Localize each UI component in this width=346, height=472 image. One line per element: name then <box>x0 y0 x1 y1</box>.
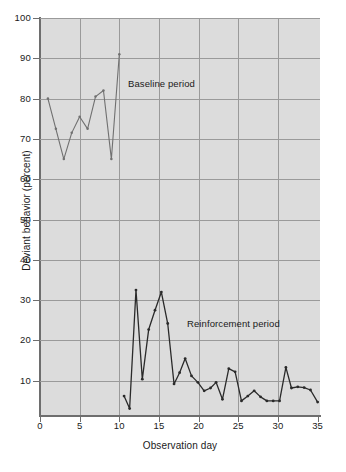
data-series-layer <box>0 0 346 472</box>
data-point <box>70 132 73 135</box>
data-point <box>94 95 97 98</box>
data-point <box>160 291 163 294</box>
data-point <box>184 357 187 360</box>
data-point <box>141 378 144 381</box>
data-point <box>265 399 268 402</box>
series-reinforcement <box>123 289 319 410</box>
x-axis-title: Observation day <box>40 440 320 451</box>
data-point <box>173 383 176 386</box>
data-point <box>203 389 206 392</box>
series-line <box>48 54 119 159</box>
data-point <box>259 395 262 398</box>
data-point <box>253 389 256 392</box>
data-point <box>234 370 237 373</box>
y-axis-title: Deviant behavior (percent) <box>21 111 32 311</box>
data-point <box>147 328 150 331</box>
data-point <box>284 366 287 369</box>
data-point <box>303 386 306 389</box>
data-point <box>47 97 50 100</box>
data-point <box>246 395 249 398</box>
data-point <box>123 395 126 398</box>
data-point <box>221 398 224 401</box>
data-point <box>190 375 193 378</box>
data-point <box>296 385 299 388</box>
annotation-baseline-period: Baseline period <box>128 78 195 89</box>
data-point <box>215 381 218 384</box>
data-point <box>63 158 66 161</box>
data-point <box>309 389 312 392</box>
data-point <box>196 381 199 384</box>
data-point <box>135 289 138 292</box>
data-point <box>272 399 275 402</box>
data-point <box>278 399 281 402</box>
data-point <box>78 116 81 119</box>
data-point <box>290 387 293 390</box>
data-point <box>227 367 230 370</box>
data-point <box>178 371 181 374</box>
data-point <box>86 128 89 131</box>
chart-figure: 10203040506070809010005101520253035 Devi… <box>0 0 346 472</box>
data-point <box>55 128 58 131</box>
series-line <box>124 290 318 408</box>
data-point <box>118 53 121 56</box>
data-point <box>128 407 131 410</box>
data-point <box>316 401 319 404</box>
series-baseline <box>47 53 121 160</box>
annotation-reinforcement-period: Reinforcement period <box>187 318 280 329</box>
data-point <box>209 387 212 390</box>
data-point <box>154 309 157 312</box>
data-point <box>240 399 243 402</box>
data-point <box>166 322 169 325</box>
data-point <box>102 89 105 92</box>
data-point <box>110 158 113 161</box>
